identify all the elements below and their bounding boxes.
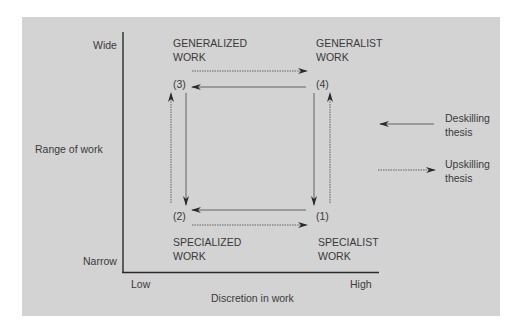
- quadrant-2-title: SPECIALIZED WORK: [173, 235, 241, 263]
- legend-upskilling-line2: thesis: [445, 171, 490, 185]
- quadrant-4-number: (4): [316, 77, 329, 91]
- quadrant-3-line2: WORK: [173, 50, 247, 64]
- quadrant-1-line1: SPECIALIST: [318, 235, 379, 249]
- quadrant-1-title: SPECIALIST WORK: [318, 235, 379, 263]
- quadrant-2-number: (2): [173, 209, 186, 223]
- y-axis-label: Range of work: [35, 142, 103, 156]
- quadrant-2-line1: SPECIALIZED: [173, 235, 241, 249]
- quadrant-4-title: GENERALIST WORK: [316, 36, 383, 64]
- x-axis-right-label: High: [350, 277, 372, 291]
- y-axis-top-label: Wide: [93, 38, 117, 52]
- quadrant-3-title: GENERALIZED WORK: [173, 36, 247, 64]
- legend-deskilling-line2: thesis: [445, 125, 490, 139]
- quadrant-3-line1: GENERALIZED: [173, 36, 247, 50]
- quadrant-4-line2: WORK: [316, 50, 383, 64]
- quadrant-4-line1: GENERALIST: [316, 36, 383, 50]
- quadrant-3-number: (3): [173, 77, 186, 91]
- legend-upskilling-line1: Upskilling: [445, 157, 490, 171]
- quadrant-1-number: (1): [316, 209, 329, 223]
- x-axis-label: Discretion in work: [211, 291, 294, 305]
- y-axis-bottom-label: Narrow: [83, 254, 117, 268]
- legend-deskilling-label: Deskilling thesis: [445, 111, 490, 139]
- quadrant-1-line2: WORK: [318, 249, 379, 263]
- legend-upskilling-label: Upskilling thesis: [445, 157, 490, 185]
- legend-deskilling-line1: Deskilling: [445, 111, 490, 125]
- x-axis-left-label: Low: [131, 277, 150, 291]
- quadrant-2-line2: WORK: [173, 249, 241, 263]
